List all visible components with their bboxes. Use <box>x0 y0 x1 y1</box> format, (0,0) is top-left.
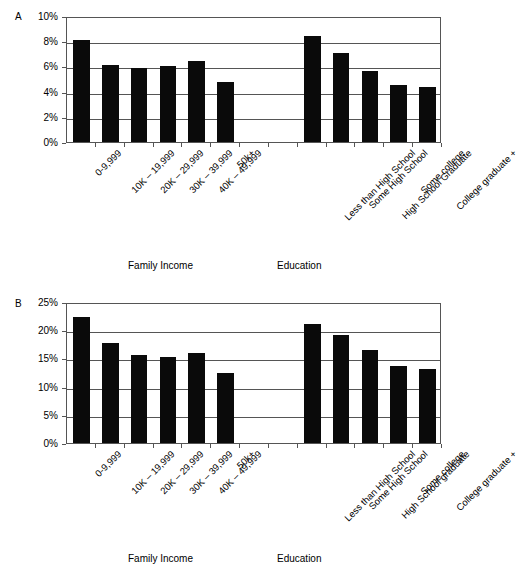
x-axis-tick <box>326 444 327 448</box>
chart-panel-b: B 0%5%10%15%20%25% 0-9,99910K – 19,99920… <box>0 289 456 578</box>
x-axis-tick <box>210 143 211 147</box>
gridline <box>67 389 440 390</box>
y-axis-tick <box>62 303 66 304</box>
y-axis-tick <box>62 388 66 389</box>
bar <box>160 66 177 142</box>
bar <box>217 82 234 142</box>
y-axis-label: 15% <box>22 354 58 364</box>
y-axis-tick <box>62 93 66 94</box>
bar <box>362 71 379 142</box>
y-axis-tick <box>62 118 66 119</box>
x-axis-tick <box>124 143 125 147</box>
bar <box>304 36 321 142</box>
x-axis-tick <box>124 444 125 448</box>
x-axis-tick <box>268 143 269 147</box>
y-axis-tick <box>62 416 66 417</box>
gridline <box>67 68 440 69</box>
y-axis-tick <box>62 67 66 68</box>
plot-area-b <box>66 303 441 444</box>
bar <box>390 85 407 142</box>
x-axis-tick <box>95 143 96 147</box>
y-axis-label: 10% <box>22 383 58 393</box>
gridline <box>67 332 440 333</box>
y-axis-label: 25% <box>22 298 58 308</box>
bar <box>188 353 205 443</box>
panel-letter-a: A <box>15 11 22 22</box>
x-axis-tick <box>297 143 298 147</box>
x-axis-tick <box>153 143 154 147</box>
bar <box>419 87 436 142</box>
y-axis-label: 0% <box>22 439 58 449</box>
x-axis-tick <box>354 143 355 147</box>
y-axis-label: 6% <box>22 62 58 72</box>
y-axis-label: 0% <box>22 138 58 148</box>
bar <box>217 373 234 444</box>
group-title-income-a: Family Income <box>128 261 193 271</box>
y-axis-label: 2% <box>22 113 58 123</box>
x-axis-tick <box>441 143 442 147</box>
bar <box>333 335 350 443</box>
x-axis-tick <box>153 444 154 448</box>
x-axis-tick <box>239 143 240 147</box>
group-title-income-b: Family Income <box>128 554 193 564</box>
panel-letter-b: B <box>15 298 22 309</box>
category-label: 0-9,999 <box>94 148 124 178</box>
x-axis-tick <box>181 444 182 448</box>
bar <box>188 61 205 142</box>
x-axis-tick <box>383 444 384 448</box>
y-axis-tick <box>62 17 66 18</box>
x-axis-tick <box>383 143 384 147</box>
x-axis-tick <box>412 444 413 448</box>
x-axis-tick <box>210 444 211 448</box>
x-axis-tick <box>239 444 240 448</box>
bar <box>304 324 321 443</box>
y-axis-label: 5% <box>22 411 58 421</box>
x-axis-tick <box>441 444 442 448</box>
x-axis-tick <box>268 444 269 448</box>
y-axis-label: 10% <box>22 12 58 22</box>
bar <box>419 369 436 443</box>
gridline <box>67 360 440 361</box>
y-axis-label: 8% <box>22 37 58 47</box>
x-axis-tick <box>354 444 355 448</box>
bar <box>333 53 350 142</box>
bar <box>102 65 119 142</box>
chart-panel-a: A 0%2%4%6%8%10% 0-9,99910K – 19,99920K –… <box>0 0 456 289</box>
y-axis-tick <box>62 359 66 360</box>
gridline <box>67 119 440 120</box>
plot-area-a <box>66 17 441 143</box>
category-label: 50k+ <box>235 449 256 470</box>
gridline <box>67 417 440 418</box>
gridline <box>67 94 440 95</box>
bar <box>102 343 119 443</box>
group-title-education-a: Education <box>277 261 321 271</box>
category-label: 50k+ <box>235 148 256 169</box>
x-axis-tick <box>412 143 413 147</box>
bar <box>160 357 177 443</box>
y-axis-label: 4% <box>22 88 58 98</box>
bar <box>390 366 407 443</box>
y-axis-tick <box>62 444 66 445</box>
bar <box>73 40 90 142</box>
y-axis-tick <box>62 42 66 43</box>
bar <box>362 350 379 443</box>
y-axis-label: 20% <box>22 326 58 336</box>
y-axis-tick <box>62 143 66 144</box>
category-label: 0-9,999 <box>94 449 124 479</box>
x-axis-tick <box>326 143 327 147</box>
bar <box>73 317 90 443</box>
group-title-education-b: Education <box>277 554 321 564</box>
y-axis-tick <box>62 331 66 332</box>
bar <box>131 68 148 142</box>
x-axis-tick <box>181 143 182 147</box>
x-axis-tick <box>95 444 96 448</box>
x-axis-tick <box>297 444 298 448</box>
bar <box>131 355 148 443</box>
gridline <box>67 43 440 44</box>
